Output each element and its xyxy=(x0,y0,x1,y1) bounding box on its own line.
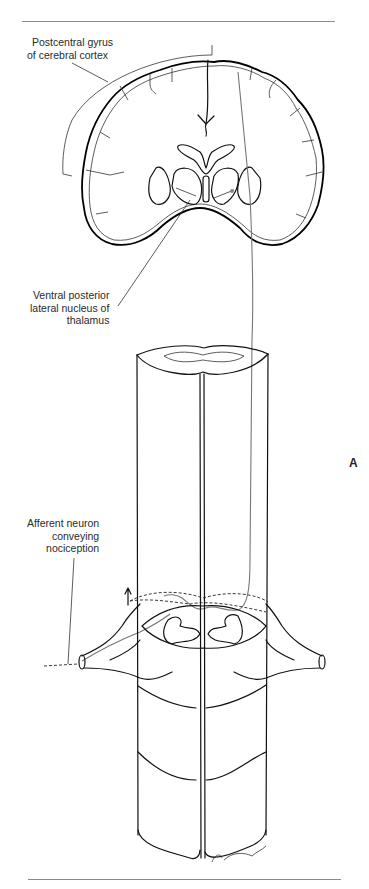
label-vpl-thalamus: Ventral posterior lateral nucleus of tha… xyxy=(30,289,109,327)
label-line: lateral nucleus of xyxy=(30,302,109,315)
gray-matter xyxy=(164,615,243,644)
label-postcentral-gyrus: Postcentral gyrus of cerebral cortex xyxy=(27,36,113,61)
spinal-cord-cross-section xyxy=(79,588,325,679)
brain-coronal-section xyxy=(82,60,324,245)
spinal-cord xyxy=(137,346,268,859)
label-line: Ventral posterior xyxy=(30,289,109,302)
label-line: nociception xyxy=(27,542,99,555)
label-line: of cerebral cortex xyxy=(27,49,113,62)
panel-letter: A xyxy=(349,456,358,470)
label-line: thalamus xyxy=(30,314,109,327)
signature xyxy=(212,838,266,862)
afferent-leader xyxy=(68,558,74,664)
peripheral-afferent xyxy=(44,664,78,666)
label-line: Afferent neuron xyxy=(27,517,99,530)
nociception-pathway-diagram xyxy=(0,0,369,889)
label-line: conveying xyxy=(27,530,99,543)
postcentral-gyrus-leader xyxy=(72,63,108,82)
label-afferent-neuron: Afferent neuron conveying nociception xyxy=(27,517,99,555)
label-line: Postcentral gyrus xyxy=(27,36,113,49)
